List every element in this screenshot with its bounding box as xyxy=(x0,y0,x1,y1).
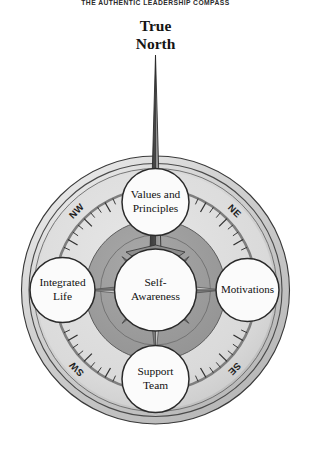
svg-text:Motivations: Motivations xyxy=(221,283,274,295)
node-north: Values andPrinciples xyxy=(122,169,189,236)
svg-text:Principles: Principles xyxy=(133,202,179,214)
svg-text:Values and: Values and xyxy=(131,188,181,200)
svg-text:Awareness: Awareness xyxy=(131,290,180,302)
svg-text:Self-: Self- xyxy=(144,276,166,288)
svg-text:Team: Team xyxy=(143,379,168,391)
node-east: Motivations xyxy=(216,259,279,322)
svg-text:Support: Support xyxy=(137,365,174,377)
node-west: IntegratedLife xyxy=(30,258,95,323)
node-center: Self-Awareness xyxy=(115,249,197,331)
node-south: SupportTeam xyxy=(122,346,189,413)
compass-graphic: NWNESESW Values andPrinciplesMotivations… xyxy=(0,0,311,451)
svg-text:Life: Life xyxy=(53,290,72,302)
compass-diagram: THE AUTHENTIC LEADERSHIP COMPASS True No… xyxy=(0,0,311,451)
svg-text:Integrated: Integrated xyxy=(39,276,85,288)
